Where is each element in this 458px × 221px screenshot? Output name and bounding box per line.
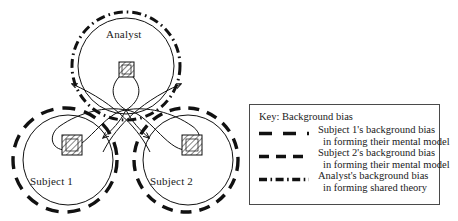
legend-label-subject1: Subject 1's background bias in forming t… <box>318 124 450 147</box>
subject1-bias-ring <box>13 108 117 212</box>
analyst-mental-model-lens <box>113 73 139 110</box>
subject2-label: Subject 2 <box>150 175 193 187</box>
subject1-circle <box>23 115 113 205</box>
legend-title: Key: Background bias <box>259 111 353 122</box>
legend-label-subject1-line2: in forming their mental model <box>318 136 450 148</box>
legend-label-analyst-line2: in forming shared theory <box>318 182 428 194</box>
legend-label-analyst: Analyst's background bias in forming sha… <box>318 170 428 193</box>
legend-label-subject1-line1: Subject 1's background bias <box>318 124 435 135</box>
legend-label-subject2-line1: Subject 2's background bias <box>318 147 435 158</box>
legend-label-subject2: Subject 2's background bias in forming t… <box>318 147 450 170</box>
subject2-circle <box>143 115 233 205</box>
legend-label-analyst-line1: Analyst's background bias <box>318 170 428 181</box>
subject2-model-square <box>182 135 202 155</box>
subject1-label: Subject 1 <box>30 175 73 187</box>
legend-swatch-dash-dot <box>258 177 310 181</box>
figure-canvas: Analyst Subject 1 Subject 2 Key: Backgro… <box>0 0 458 221</box>
legend-label-subject2-line2: in forming their mental model <box>318 159 450 171</box>
analyst-model-square <box>119 62 134 77</box>
legend-swatch-dashed-long <box>258 131 310 135</box>
subject1-model-square <box>62 135 82 155</box>
legend-swatch-dashed-medium <box>258 154 310 158</box>
legend-entry-analyst: Analyst's background bias in forming sha… <box>258 173 438 196</box>
analyst-label: Analyst <box>106 28 142 40</box>
